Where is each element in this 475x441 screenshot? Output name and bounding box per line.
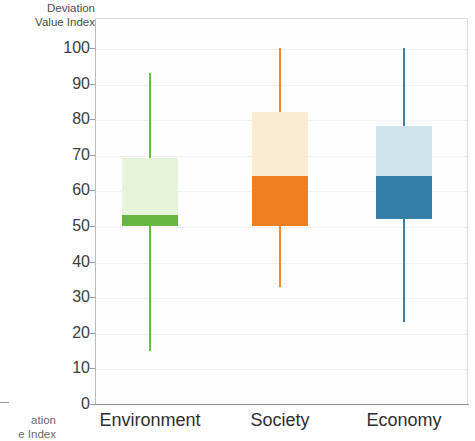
y-tick-label: 30 <box>6 288 90 306</box>
y-tick-label: 10 <box>6 359 90 377</box>
x-axis-label-economy: Economy <box>324 410 475 431</box>
y-axis-ticks: 1009080706050403020100 <box>0 0 90 441</box>
box-upper-quartile <box>252 112 308 176</box>
y-tick-mark <box>90 297 95 298</box>
y-tick-label: 100 <box>6 39 90 57</box>
y-tick-label: 20 <box>6 324 90 342</box>
box-plot-environment[interactable] <box>122 0 178 441</box>
box-upper-quartile <box>376 126 432 176</box>
y-tick-mark <box>90 155 95 156</box>
y-tick-label: 90 <box>6 75 90 93</box>
y-tick-mark <box>90 404 95 405</box>
box-lower-quartile <box>376 176 432 219</box>
box-plot-economy[interactable] <box>376 0 432 441</box>
y-tick-label: 50 <box>6 217 90 235</box>
y-tick-label: 40 <box>6 253 90 271</box>
y-tick-mark <box>90 190 95 191</box>
cropped-axis-tick <box>0 402 9 403</box>
box-plot-chart: Deviation Value Index 100908070605040302… <box>0 0 475 441</box>
y-tick-mark <box>90 84 95 85</box>
y-tick-mark <box>90 226 95 227</box>
box-lower-quartile <box>122 215 178 226</box>
y-tick-label: 80 <box>6 110 90 128</box>
y-tick-mark <box>90 333 95 334</box>
y-tick-label: 60 <box>6 181 90 199</box>
y-tick-label: 70 <box>6 146 90 164</box>
y-tick-mark <box>90 368 95 369</box>
y-tick-mark <box>90 48 95 49</box>
box-upper-quartile <box>122 158 178 215</box>
box-plot-society[interactable] <box>252 0 308 441</box>
y-tick-mark <box>90 119 95 120</box>
cropped-neighbor-axis-label: ation e Index <box>0 414 56 440</box>
box-lower-quartile <box>252 176 308 226</box>
y-tick-mark <box>90 262 95 263</box>
